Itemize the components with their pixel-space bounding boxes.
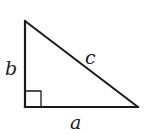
label-a: a [70, 111, 81, 133]
label-b: b [5, 57, 17, 79]
hypotenuse-c-line [25, 21, 138, 107]
right-angle-marker-icon [25, 91, 41, 107]
label-c: c [85, 46, 96, 68]
right-triangle-diagram: b c a [0, 0, 144, 134]
